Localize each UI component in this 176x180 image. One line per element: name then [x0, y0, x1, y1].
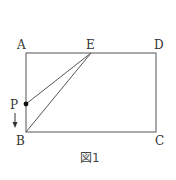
segment-eb: [26, 53, 91, 132]
segment-ep: [26, 53, 91, 104]
arrow-down-icon: [13, 113, 18, 128]
label-e: E: [86, 38, 95, 52]
label-a: A: [16, 38, 26, 52]
label-p: P: [10, 98, 18, 112]
figure-caption: 図1: [80, 151, 100, 165]
label-d: D: [154, 38, 164, 52]
label-c: C: [155, 134, 164, 148]
point-p-dot: [24, 102, 29, 107]
figure-1-diagram: A E D P B C 図1: [0, 0, 176, 180]
rectangle-abcd: [26, 53, 156, 132]
label-b: B: [16, 134, 25, 148]
